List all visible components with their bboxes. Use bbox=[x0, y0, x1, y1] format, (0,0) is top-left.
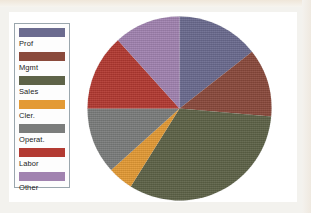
legend-swatch-mgmt bbox=[19, 52, 65, 61]
legend-item-labor: Labor bbox=[19, 148, 65, 171]
page-canvas: Prof Mgmt Sales Cler. Operat. Labor bbox=[0, 0, 311, 213]
scan-top-band bbox=[0, 0, 311, 7]
pie-chart bbox=[87, 16, 272, 201]
legend-label-operat: Operat. bbox=[19, 134, 65, 145]
legend-label-labor: Labor bbox=[19, 158, 65, 169]
legend-item-cler: Cler. bbox=[19, 100, 65, 123]
legend-item-prof: Prof bbox=[19, 28, 65, 51]
pie-svg bbox=[87, 16, 272, 201]
legend-item-sales: Sales bbox=[19, 76, 65, 99]
legend-swatch-labor bbox=[19, 148, 65, 157]
legend-item-mgmt: Mgmt bbox=[19, 52, 65, 75]
legend-swatch-operat bbox=[19, 124, 65, 133]
legend-swatch-prof bbox=[19, 28, 65, 37]
legend-label-sales: Sales bbox=[19, 86, 65, 97]
legend: Prof Mgmt Sales Cler. Operat. Labor bbox=[14, 23, 70, 188]
legend-label-other: Other bbox=[19, 182, 65, 193]
legend-label-cler: Cler. bbox=[19, 110, 65, 121]
scan-right-band bbox=[302, 0, 311, 213]
legend-swatch-cler bbox=[19, 100, 65, 109]
chart-figure: Prof Mgmt Sales Cler. Operat. Labor bbox=[9, 12, 297, 202]
legend-label-prof: Prof bbox=[19, 38, 65, 49]
legend-label-mgmt: Mgmt bbox=[19, 62, 65, 73]
legend-item-other: Other bbox=[19, 172, 65, 195]
legend-swatch-other bbox=[19, 172, 65, 181]
legend-swatch-sales bbox=[19, 76, 65, 85]
legend-item-operat: Operat. bbox=[19, 124, 65, 147]
